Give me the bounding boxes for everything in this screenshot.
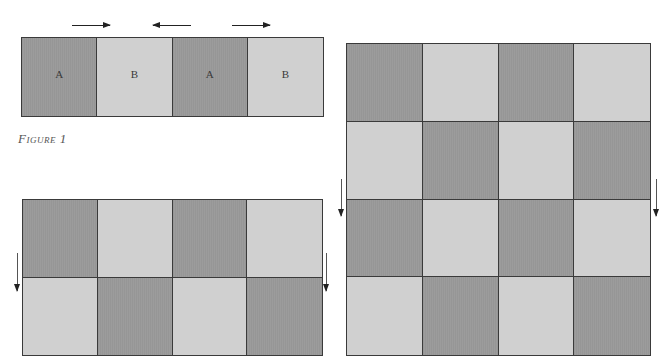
cell-light	[423, 44, 499, 122]
cell-dark	[499, 200, 575, 278]
figure-3-grid	[346, 43, 651, 356]
cell-dark	[347, 44, 423, 122]
cell-light	[347, 122, 423, 200]
arrow-left-icon	[153, 22, 191, 29]
cell-dark	[574, 122, 650, 200]
cell-light: B	[248, 38, 323, 116]
cell-light	[574, 200, 650, 278]
cell-dark	[247, 278, 322, 356]
arrow-down-icon	[14, 253, 21, 291]
arrow-right-icon	[232, 22, 270, 29]
cell-dark: A	[22, 38, 97, 116]
cell-dark	[173, 200, 248, 278]
cell-light	[423, 200, 499, 278]
cell-dark	[499, 44, 575, 122]
cell-dark	[423, 277, 499, 355]
cell-dark	[574, 277, 650, 355]
arrow-down-icon	[323, 253, 330, 291]
cell-dark	[98, 278, 173, 356]
cell-dark	[23, 200, 98, 278]
cell-light	[574, 44, 650, 122]
cell-light	[499, 277, 575, 355]
cell-light: B	[97, 38, 172, 116]
arrow-down-icon	[653, 179, 660, 216]
cell-light	[23, 278, 98, 356]
cell-dark	[347, 200, 423, 278]
figure-1-strip: ABAB	[21, 37, 324, 117]
cell-label: A	[55, 68, 63, 80]
cell-light	[347, 277, 423, 355]
figure-2-grid	[22, 199, 323, 356]
cell-label: B	[282, 68, 289, 80]
arrow-right-icon	[72, 22, 110, 29]
cell-dark	[423, 122, 499, 200]
cell-label: B	[131, 68, 138, 80]
cell-light	[499, 122, 575, 200]
cell-light	[247, 200, 322, 278]
cell-label: A	[206, 68, 214, 80]
figure-1-caption: Figure 1	[18, 131, 67, 147]
arrow-down-icon	[338, 179, 345, 216]
cell-dark: A	[173, 38, 248, 116]
cell-light	[173, 278, 248, 356]
cell-light	[98, 200, 173, 278]
